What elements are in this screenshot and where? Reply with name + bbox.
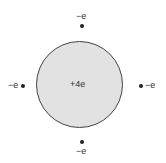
electron-right-dot [139,84,143,88]
electron-left-dot [21,84,25,88]
electron-left-label: −e [8,81,18,90]
nucleus-charge-label: +4e [70,80,85,89]
electron-top-label: −e [76,12,86,21]
electron-top-dot [80,24,84,28]
electron-bottom-label: −e [76,147,86,156]
electron-right-label: −e [145,81,155,90]
electron-bottom-dot [80,140,84,144]
